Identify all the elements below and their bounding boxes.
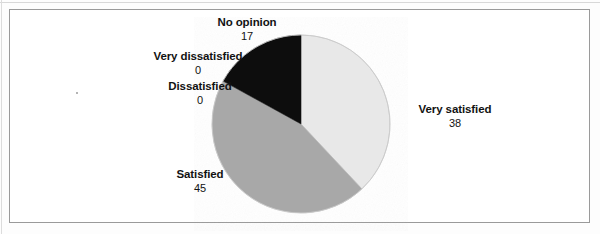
pie-label-very-dissatisfied: Very dissatisfied 0 [118, 50, 278, 76]
pie-label-very-satisfied: Very satisfied 38 [385, 103, 525, 129]
pie-label-very-satisfied-value: 38 [385, 117, 525, 129]
pie-label-satisfied-category: Satisfied [138, 168, 262, 181]
pie-label-no-opinion: No opinion 17 [175, 16, 319, 42]
pie-label-satisfied-value: 45 [138, 182, 262, 194]
pie-label-no-opinion-value: 17 [175, 30, 319, 42]
pie-chart-figure: No opinion 17 Very dissatisfied 0 Dissat… [0, 0, 600, 234]
pie-label-dissatisfied: Dissatisfied 0 [130, 80, 270, 106]
pie-label-dissatisfied-category: Dissatisfied [130, 80, 270, 93]
pie-label-very-satisfied-category: Very satisfied [385, 103, 525, 116]
pie-label-very-dissatisfied-value: 0 [118, 64, 278, 76]
pie-label-satisfied: Satisfied 45 [138, 168, 262, 194]
pie-label-very-dissatisfied-category: Very dissatisfied [118, 50, 278, 63]
pie-label-no-opinion-category: No opinion [175, 16, 319, 29]
pie-label-dissatisfied-value: 0 [130, 94, 270, 106]
